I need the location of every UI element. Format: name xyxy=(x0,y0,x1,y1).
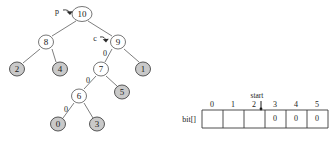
tree-node-5-label: 5 xyxy=(120,87,125,97)
pointer-c: c xyxy=(93,34,109,43)
pointer-c-arrowhead xyxy=(103,39,109,43)
bit-array-table xyxy=(202,110,328,128)
tree-node-10-label: 10 xyxy=(78,9,88,19)
tree-node-7-label: 7 xyxy=(99,64,104,74)
bit-array-cell-3[interactable]: 0 xyxy=(273,114,277,123)
binary-tree-diagram: 10 8 9 2 4 7 1 xyxy=(0,0,170,147)
pointer-p: p xyxy=(55,7,73,16)
bit-array-index-labels: 0 1 2 3 4 5 xyxy=(210,100,319,109)
figure-canvas: 10 8 9 2 4 7 1 xyxy=(0,0,336,147)
tree-node-0-label: 0 xyxy=(56,119,61,129)
edge-8-2 xyxy=(23,49,40,63)
edge-8-4 xyxy=(52,49,56,62)
bit-array-index-1: 1 xyxy=(231,100,235,109)
bit-array-cell-4[interactable]: 0 xyxy=(294,114,298,123)
tree-node-10[interactable]: 10 xyxy=(72,7,92,22)
bit-array-index-3: 3 xyxy=(273,100,277,109)
tree-node-4-label: 4 xyxy=(58,64,63,74)
start-pointer: start xyxy=(251,91,265,111)
tree-node-8-label: 8 xyxy=(44,37,49,47)
tree-node-4[interactable]: 4 xyxy=(53,62,68,76)
bit-array-index-0: 0 xyxy=(210,100,214,109)
bit-array-name-label: bit[] xyxy=(182,115,196,124)
bit-array-cell-values: 0 0 0 xyxy=(273,114,319,123)
bit-array-cell-5[interactable]: 0 xyxy=(315,114,319,123)
tree-node-1[interactable]: 1 xyxy=(136,62,151,76)
tree-node-1-label: 1 xyxy=(141,64,146,74)
bit-array-index-4: 4 xyxy=(294,100,298,109)
tree-node-5[interactable]: 5 xyxy=(115,85,130,99)
bit-array-index-2: 2 xyxy=(252,100,256,109)
tree-node-3[interactable]: 3 xyxy=(90,117,105,131)
edge-9-1 xyxy=(124,49,139,62)
start-pointer-label: start xyxy=(251,91,265,100)
tree-node-9-label: 9 xyxy=(116,37,121,47)
tree-node-8[interactable]: 8 xyxy=(39,35,54,49)
edge-label-7-6: 0 xyxy=(86,76,90,85)
edge-10-8 xyxy=(52,21,76,36)
tree-node-6-label: 6 xyxy=(77,91,82,101)
tree-node-9[interactable]: 9 xyxy=(111,35,126,49)
edge-label-9-7: 0 xyxy=(103,49,107,58)
tree-node-3-label: 3 xyxy=(95,119,100,129)
edge-6-3 xyxy=(84,103,93,118)
edge-10-9 xyxy=(88,21,112,36)
pointer-p-label: p xyxy=(55,7,59,16)
edge-7-5 xyxy=(106,76,117,86)
tree-node-2-label: 2 xyxy=(15,64,20,74)
tree-node-2[interactable]: 2 xyxy=(10,62,25,76)
start-pointer-dot xyxy=(260,108,263,111)
tree-node-7[interactable]: 7 xyxy=(94,62,109,76)
tree-edge-labels: 0 0 0 xyxy=(64,49,107,114)
tree-node-0[interactable]: 0 xyxy=(51,117,66,131)
tree-node-6[interactable]: 6 xyxy=(72,89,87,103)
edge-label-6-0: 0 xyxy=(64,105,68,114)
tree-nodes: 10 8 9 2 4 7 1 xyxy=(10,7,151,132)
bit-array-index-5: 5 xyxy=(315,100,319,109)
pointer-c-label: c xyxy=(93,34,97,43)
